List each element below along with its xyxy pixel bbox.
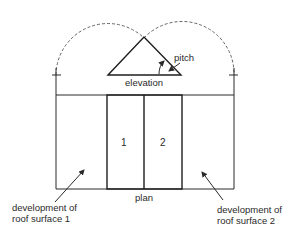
- right-dashed-arc: [144, 21, 234, 75]
- surface-1-number: 1: [121, 137, 127, 148]
- development-1-line1: development of: [12, 202, 77, 213]
- development-1-line2: roof surface 1: [12, 213, 77, 224]
- pitch-label: pitch: [174, 52, 194, 63]
- elevation-label: elevation: [125, 77, 163, 88]
- pitch-angle-arc: [159, 61, 164, 74]
- development-1-label: development of roof surface 1: [12, 202, 77, 224]
- development-2-line1: development of: [217, 204, 282, 215]
- elevation-triangle: [108, 37, 181, 75]
- roof-development-diagram: pitch elevation 1 2 plan development of …: [0, 0, 293, 240]
- surface-2-number: 2: [160, 137, 166, 148]
- plan-label: plan: [135, 192, 153, 203]
- development-2-line2: roof surface 2: [217, 215, 282, 226]
- leader-arrow-2: [202, 172, 223, 200]
- development-2-label: development of roof surface 2: [217, 204, 282, 226]
- leader-arrow-1: [55, 170, 84, 202]
- left-dashed-arc: [56, 24, 144, 75]
